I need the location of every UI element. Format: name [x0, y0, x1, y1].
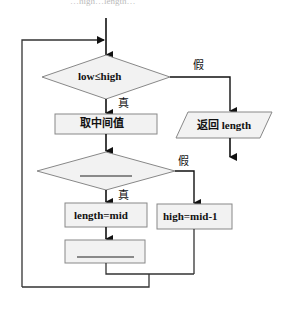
decision-blank — [37, 152, 175, 190]
loop-bottom-line — [22, 274, 149, 287]
caption-fragment: …high…length… — [70, 0, 136, 6]
flowchart-canvas — [0, 0, 296, 310]
process-high-label: high=mid-1 — [163, 210, 218, 223]
decision2-false-line — [175, 171, 194, 203]
decision1-false-line — [170, 77, 230, 111]
process-length-label: length=mid — [74, 209, 128, 222]
process-blank — [65, 240, 145, 263]
decision2-true-label: 真 — [118, 189, 129, 202]
decision1-false-label: 假 — [193, 59, 204, 72]
decision1-true-label: 真 — [118, 97, 129, 110]
decision1-label: low≤high — [78, 70, 121, 83]
merge-line — [106, 263, 194, 274]
output-return-label: 返回 length — [197, 119, 251, 132]
decision2-false-label: 假 — [178, 155, 189, 168]
process-mid-label: 取中间值 — [80, 117, 124, 130]
